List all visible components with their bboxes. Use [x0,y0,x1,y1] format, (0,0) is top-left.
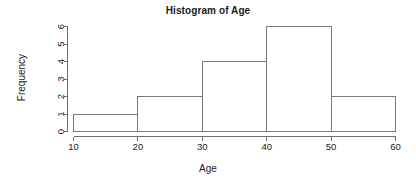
y-tick-label: 6 [55,24,66,29]
histogram-bar [74,114,138,132]
histogram-bar [202,62,266,132]
y-tick-label: 3 [55,76,66,81]
x-tick-label: 60 [390,141,401,152]
y-axis: 0123456 [55,24,68,134]
y-tick-label: 0 [55,129,66,134]
y-tick-label: 2 [55,94,66,99]
x-tick-label: 10 [68,141,79,152]
y-tick-label: 5 [55,41,66,46]
histogram-bar [267,27,331,132]
x-tick-label: 40 [261,141,272,152]
histogram-bar [138,97,202,132]
y-tick-label: 1 [55,111,66,116]
plot-canvas: 0123456 102030405060 [0,0,416,188]
x-tick-label: 30 [197,141,208,152]
x-axis: 102030405060 [68,137,401,152]
histogram-bar [331,97,395,132]
x-tick-label: 50 [326,141,337,152]
x-tick-label: 20 [133,141,144,152]
histogram-plot: Histogram of Age 0123456 102030405060 Fr… [0,0,416,188]
bars-group [74,27,396,132]
y-tick-label: 4 [55,59,66,64]
x-axis-label: Age [0,163,416,174]
y-axis-label: Frequency [16,38,27,118]
